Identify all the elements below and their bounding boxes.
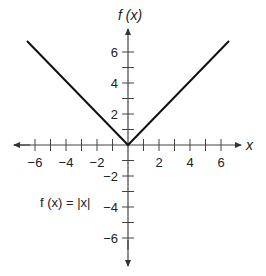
- y-axis-label: f (x): [118, 7, 142, 23]
- x-tick-label: 4: [186, 155, 193, 170]
- y-tick-label: −2: [103, 169, 118, 184]
- y-tick-label: 4: [111, 76, 118, 91]
- absolute-value-chart: −6 −4 −2 2 4 6 6 4 2 −2 −4 −6 f (x) x f …: [0, 0, 266, 276]
- x-tick-label: 6: [217, 155, 224, 170]
- function-annotation: f (x) = |x|: [40, 195, 90, 210]
- x-tick-label: −4: [59, 155, 74, 170]
- y-tick-label: −6: [103, 231, 118, 246]
- x-tick-label: −6: [28, 155, 43, 170]
- y-tick-label: 6: [111, 45, 118, 60]
- y-tick-label: −4: [103, 200, 118, 215]
- y-tick-label: 2: [111, 107, 118, 122]
- x-tick-label: 2: [155, 155, 162, 170]
- x-axis-label: x: [245, 137, 254, 153]
